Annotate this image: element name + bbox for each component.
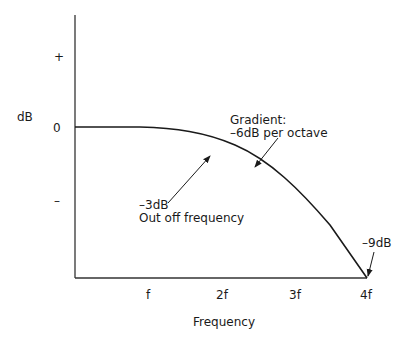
end-annotation: –9dB <box>362 236 391 250</box>
y-tick-zero: 0 <box>53 121 61 135</box>
gradient-annotation-line1: Gradient: <box>230 113 286 127</box>
y-tick-minus: – <box>54 194 60 208</box>
end-arrow <box>368 252 374 276</box>
x-tick-4f: 4f <box>360 288 372 302</box>
x-axis-label: Frequency <box>193 315 255 329</box>
x-tick-3f: 3f <box>289 288 301 302</box>
cutoff-arrow <box>168 156 210 203</box>
y-tick-plus: + <box>54 50 64 64</box>
cutoff-annotation-line1: –3dB <box>139 198 168 212</box>
y-axis-label: dB <box>17 110 33 124</box>
gradient-annotation-line2: –6dB per octave <box>230 126 328 140</box>
x-tick-f: f <box>146 288 150 302</box>
cutoff-annotation-line2: Out off frequency <box>139 211 244 225</box>
response-curve <box>75 127 367 278</box>
x-tick-2f: 2f <box>216 288 228 302</box>
